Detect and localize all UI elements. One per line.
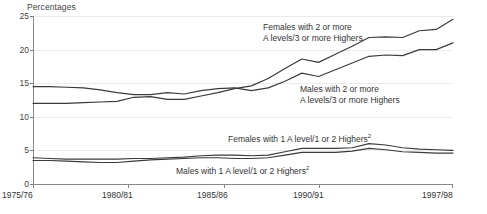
- annotation-line-1: Males with 1 A level/1 or 2 Highers: [176, 166, 306, 176]
- y-tick-label-5: 5: [9, 146, 29, 155]
- annotation-line-1: Males with 2 or more: [300, 84, 400, 95]
- x-tick-label-1985: 1985/86: [197, 191, 228, 200]
- x-tick-label-1975: 1975/76: [2, 191, 33, 200]
- annotation-line-2: A levels/3 or more Highers: [263, 33, 363, 44]
- annotation-females-2-or-more: Females with 2 or more A levels/3 or mor…: [263, 22, 363, 43]
- x-tick-mark: [33, 184, 34, 188]
- annotation-line-1: Females with 2 or more: [263, 22, 363, 33]
- annotation-males-1-a-level: Males with 1 A level/1 or 2 Highers2: [176, 166, 309, 177]
- x-tick-mark: [319, 184, 320, 188]
- y-tick-label-20: 20: [9, 46, 29, 55]
- x-tick-label-1990: 1990/91: [293, 191, 324, 200]
- annotation-line-2: A levels/3 or more Highers: [300, 95, 400, 106]
- x-axis-line: [33, 184, 453, 185]
- annotation-footnote-marker: 2: [306, 165, 309, 171]
- x-tick-label-1980: 1980/81: [102, 191, 133, 200]
- annotation-line-1: Females with 1 A level/1 or 2 Highers: [228, 134, 368, 144]
- line-chart: Percentages 0 5 10 15 20 25 1975/76 1980…: [0, 0, 487, 214]
- series-line-females-1-a-level: [33, 144, 453, 159]
- x-tick-mark: [224, 184, 225, 188]
- annotation-footnote-marker: 2: [368, 133, 371, 139]
- x-tick-mark: [452, 184, 453, 188]
- x-tick-mark: [128, 184, 129, 188]
- y-tick-label-15: 15: [9, 79, 29, 88]
- annotation-males-2-or-more: Males with 2 or more A levels/3 or more …: [300, 84, 400, 105]
- x-tick-label-1997: 1997/98: [422, 191, 453, 200]
- y-tick-label-10: 10: [9, 113, 29, 122]
- y-tick-label-25: 25: [9, 12, 29, 21]
- y-tick-label-0: 0: [9, 180, 29, 189]
- y-axis-title: Percentages: [27, 2, 76, 12]
- annotation-females-1-a-level: Females with 1 A level/1 or 2 Highers2: [228, 134, 371, 145]
